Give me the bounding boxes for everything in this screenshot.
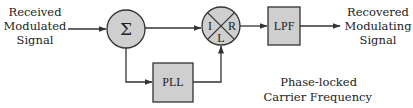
input-label: Received Modulated Signal xyxy=(4,5,67,47)
mixer-port-l: L xyxy=(217,31,224,45)
pll-block: PLL xyxy=(153,63,193,102)
svg-text:Recovered: Recovered xyxy=(347,5,409,19)
output-label: Recovered Modulating Signal xyxy=(344,5,412,47)
svg-text:Carrier Frequency: Carrier Frequency xyxy=(264,90,373,104)
svg-text:Signal: Signal xyxy=(360,33,397,47)
summer-node: Σ xyxy=(107,10,145,48)
block-diagram: Received Modulated Signal Σ PLL I R L LP… xyxy=(0,0,413,108)
mixer-port-i: I xyxy=(208,19,212,33)
svg-text:Modulated: Modulated xyxy=(4,19,67,33)
svg-text:Received: Received xyxy=(8,5,62,19)
svg-text:Phase-locked: Phase-locked xyxy=(280,75,357,89)
svg-text:Modulating: Modulating xyxy=(344,19,412,33)
svg-text:Signal: Signal xyxy=(17,33,54,47)
mixer-port-r: R xyxy=(228,19,236,33)
mixer-node: I R L xyxy=(202,7,240,45)
sigma-symbol: Σ xyxy=(120,19,132,39)
lpf-block: LPF xyxy=(268,7,300,45)
svg-text:LPF: LPF xyxy=(274,19,295,33)
pll-to-mixer-arrow xyxy=(193,46,221,82)
pll-output-label: Phase-locked Carrier Frequency xyxy=(264,75,373,104)
summer-to-pll-arrow xyxy=(126,48,152,82)
svg-text:PLL: PLL xyxy=(162,75,183,89)
